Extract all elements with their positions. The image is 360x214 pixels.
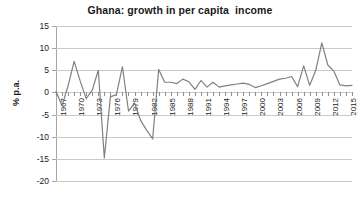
chart-title: Ghana: growth in per capita income xyxy=(0,4,360,16)
y-axis-label: % p.a. xyxy=(11,63,21,123)
y-tick-label: -10 xyxy=(37,132,49,142)
y-tick-label: 15 xyxy=(40,21,49,31)
plot-area: 151050-5-10-15-20 1967197019731976197919… xyxy=(56,26,352,181)
y-tick-mark xyxy=(52,181,56,182)
x-tick-mark xyxy=(352,92,353,96)
y-tick-label: -5 xyxy=(41,110,49,120)
y-tick-label: -20 xyxy=(37,176,49,186)
chart-container: Ghana: growth in per capita income % p.a… xyxy=(0,0,360,214)
y-tick-label: 5 xyxy=(44,65,49,75)
y-tick-label: 0 xyxy=(44,87,49,97)
gridline xyxy=(56,181,352,182)
data-series-line xyxy=(56,26,352,181)
y-tick-label: -15 xyxy=(37,154,49,164)
y-tick-label: 10 xyxy=(40,43,49,53)
